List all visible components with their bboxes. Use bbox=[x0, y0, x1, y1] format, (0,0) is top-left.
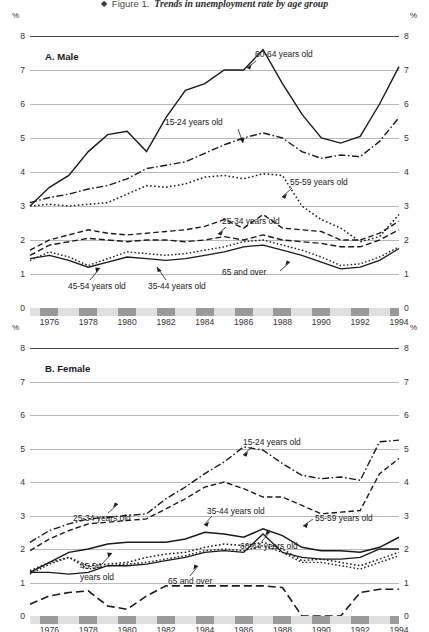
y-unit-right-a: % bbox=[410, 12, 417, 20]
axis-band-segment-1978 bbox=[79, 616, 97, 624]
figure-page: ◆ Figure 1. Trends in unemployment rate … bbox=[0, 0, 429, 632]
x-axis-band-male bbox=[30, 308, 399, 316]
axis-band-segment-1976 bbox=[40, 308, 58, 316]
ytick-left-7: 7 bbox=[20, 66, 25, 75]
series-b-15-24 bbox=[30, 440, 399, 542]
ytick-b-left-0: 0 bbox=[20, 612, 25, 621]
axis-band-segment-1990 bbox=[312, 616, 330, 624]
series-a-35-44 bbox=[30, 240, 399, 266]
plot-area-male: 8 8 7 7 6 6 5 5 4 4 3 3 2 2 1 1 0 0 bbox=[30, 36, 399, 308]
ytick-b-left-4: 4 bbox=[20, 478, 25, 487]
axis-band-segment-1980 bbox=[118, 308, 136, 316]
ytick-b-right-0: 0 bbox=[404, 612, 409, 621]
y-unit-right-b: % bbox=[410, 324, 417, 332]
annotation-a-35-44: 35-44 years old bbox=[148, 282, 206, 292]
ytick-right-5: 5 bbox=[404, 134, 409, 143]
ytick-b-right-6: 6 bbox=[404, 411, 409, 420]
axis-band-segment-1992 bbox=[351, 616, 369, 624]
series-b-65-over bbox=[30, 586, 399, 616]
annotation-b-15-24: 15-24 years old bbox=[243, 438, 301, 448]
ytick-b-right-8: 8 bbox=[404, 344, 409, 353]
annotation-a-45-54: 45-54 years old bbox=[68, 282, 126, 292]
ytick-right-2: 2 bbox=[404, 236, 409, 245]
series-b-25-34 bbox=[30, 459, 399, 551]
ytick-left-3: 3 bbox=[20, 202, 25, 211]
axis-band-segment-1982 bbox=[157, 616, 175, 624]
figure-number: Figure 1. bbox=[112, 0, 150, 9]
ytick-right-3: 3 bbox=[404, 202, 409, 211]
ytick-right-6: 6 bbox=[404, 100, 409, 109]
panel-female: % % 8 8 7 7 6 6 5 5 4 4 3 3 2 2 1 bbox=[0, 326, 429, 632]
series-lines-male bbox=[30, 36, 399, 308]
ytick-b-left-1: 1 bbox=[20, 579, 25, 588]
series-a-15-24 bbox=[30, 118, 399, 203]
x-tick-1986: 1986 bbox=[234, 626, 253, 632]
ytick-b-right-1: 1 bbox=[404, 579, 409, 588]
ytick-b-right-4: 4 bbox=[404, 478, 409, 487]
axis-band-segment-1976 bbox=[40, 616, 58, 624]
x-tick-1980: 1980 bbox=[118, 626, 137, 632]
series-a-25-34 bbox=[30, 230, 399, 256]
ytick-right-8: 8 bbox=[404, 32, 409, 41]
axis-band-segment-1986 bbox=[235, 616, 253, 624]
annotation-a-55-59: 55-59 years old bbox=[290, 178, 348, 188]
annotation-b-35-44: 35-44 years old bbox=[207, 507, 265, 517]
ytick-b-left-8: 8 bbox=[20, 344, 25, 353]
ytick-left-1: 1 bbox=[20, 270, 25, 279]
ytick-b-left-7: 7 bbox=[20, 378, 25, 387]
annotation-b-45-54: 45-54 years old bbox=[80, 561, 114, 582]
annotation-b-60-64: 60-64 years old bbox=[240, 542, 298, 552]
ytick-b-left-2: 2 bbox=[20, 545, 25, 554]
axis-band-segment-1990 bbox=[312, 308, 330, 316]
annotation-b-55-59: 55-59 years old bbox=[315, 514, 373, 524]
series-a-65-over bbox=[30, 215, 399, 251]
x-tick-1992: 1992 bbox=[351, 626, 370, 632]
x-tick-1988: 1988 bbox=[273, 626, 292, 632]
axis-band-segment-1984 bbox=[196, 616, 214, 624]
x-tick-1978: 1978 bbox=[79, 626, 98, 632]
axis-band-segment-1980 bbox=[118, 616, 136, 624]
ytick-b-left-5: 5 bbox=[20, 445, 25, 454]
x-axis-labels-female: 1976197819801982198419861988199019921994 bbox=[30, 626, 399, 632]
panel-b-label: B. Female bbox=[45, 363, 90, 374]
axis-band-segment-1988 bbox=[273, 308, 291, 316]
annotation-b-65-over: 65 and over bbox=[168, 577, 212, 587]
ytick-right-1: 1 bbox=[404, 270, 409, 279]
ytick-b-left-6: 6 bbox=[20, 411, 25, 420]
ytick-right-4: 4 bbox=[404, 168, 409, 177]
x-tick-1984: 1984 bbox=[195, 626, 214, 632]
annotation-a-25-34: 25-34 years old bbox=[222, 217, 280, 227]
annotation-a-15-24: 15-24 years old bbox=[165, 118, 223, 128]
axis-band-segment-1982 bbox=[157, 308, 175, 316]
x-tick-1994: 1994 bbox=[389, 626, 408, 632]
ytick-left-6: 6 bbox=[20, 100, 25, 109]
x-tick-1976: 1976 bbox=[40, 626, 59, 632]
axis-band-segment-1978 bbox=[79, 308, 97, 316]
annotation-a-60-64: 60-64 years old bbox=[255, 50, 313, 60]
figure-caption: Trends in unemployment rate by age group bbox=[154, 0, 328, 9]
ytick-b-right-3: 3 bbox=[404, 512, 409, 521]
annotation-a-65-over: 65 and over bbox=[222, 268, 266, 278]
bullet-icon: ◆ bbox=[101, 0, 107, 8]
panel-male: % % 8 8 7 7 6 6 5 5 4 4 3 3 2 2 bbox=[0, 14, 429, 324]
annotation-b-25-34: 25-34 years old bbox=[73, 514, 131, 524]
x-tick-1982: 1982 bbox=[156, 626, 175, 632]
x-tick-1990: 1990 bbox=[312, 626, 331, 632]
axis-band-segment-1992 bbox=[351, 308, 369, 316]
ytick-right-7: 7 bbox=[404, 66, 409, 75]
ytick-left-0: 0 bbox=[20, 304, 25, 313]
axis-band-segment-1984 bbox=[196, 308, 214, 316]
axis-band-segment-1988 bbox=[273, 616, 291, 624]
axis-band-segment-1994 bbox=[390, 308, 399, 316]
y-unit-left-b: % bbox=[12, 324, 19, 332]
axis-band-segment-1994 bbox=[390, 616, 399, 624]
ytick-b-right-5: 5 bbox=[404, 445, 409, 454]
ytick-left-5: 5 bbox=[20, 134, 25, 143]
ytick-left-8: 8 bbox=[20, 32, 25, 41]
ytick-b-right-2: 2 bbox=[404, 545, 409, 554]
figure-title: ◆ Figure 1. Trends in unemployment rate … bbox=[0, 0, 429, 11]
ytick-b-right-7: 7 bbox=[404, 378, 409, 387]
ytick-b-left-3: 3 bbox=[20, 512, 25, 521]
annotation-b-45-54-line1: 45-54 bbox=[80, 561, 114, 572]
x-axis-band-female bbox=[30, 616, 399, 624]
